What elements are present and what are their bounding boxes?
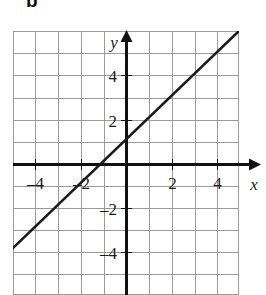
coordinate-plane-chart: –4 –2 2 4 4 2 –2 –4 y x	[0, 0, 266, 295]
y-tick-label-pos4: 4	[109, 67, 118, 86]
y-tick-label-pos2: 2	[109, 112, 118, 131]
x-tick-label-neg2: –2	[72, 174, 90, 193]
x-tick-label-neg4: –4	[26, 174, 45, 193]
y-tick-label-neg4: –4	[99, 244, 118, 263]
x-tick-label-pos2: 2	[168, 174, 177, 193]
x-tick-label-pos4: 4	[213, 174, 222, 193]
y-axis-label: y	[108, 33, 118, 52]
y-tick-label-neg2: –2	[99, 200, 117, 219]
x-axis-label: x	[249, 175, 258, 194]
figure-panel: b	[0, 0, 266, 295]
